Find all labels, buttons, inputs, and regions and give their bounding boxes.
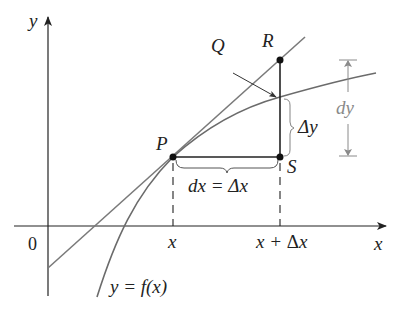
tick-x-prefix: x + [255,231,287,252]
dy-label: dy [336,97,355,118]
q-pointer-arrow [233,73,276,97]
point-s-label: S [287,156,297,177]
point-r [277,57,284,64]
brace-delta-y [284,99,294,156]
dx-equals-delta-x-label: dx = Δx [188,175,248,196]
differential-diagram: y 0 x P Q R S x x + Δx dx = Δx Δy dy y =… [0,0,410,311]
tick-x-label: x [167,231,177,252]
point-s [277,154,284,161]
point-q-label: Q [211,35,225,56]
function-label: y = f(x) [108,276,167,298]
tick-x-suffix: x [298,231,308,252]
delta-y-label: Δy [297,116,318,137]
point-r-label: R [261,30,274,51]
x-axis-label: x [373,233,383,254]
point-p [170,154,177,161]
tick-delta: Δ [287,231,299,252]
y-axis-label: y [27,10,38,31]
brace-dx [176,160,278,173]
tick-x-plus-dx-label: x + Δx [255,231,308,252]
origin-label: 0 [28,234,37,254]
point-p-label: P [155,133,168,154]
